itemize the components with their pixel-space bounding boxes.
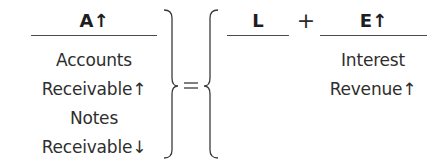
liabilities-rule — [227, 35, 289, 36]
equity-item-interest: Interest — [313, 46, 433, 75]
equity-items: Interest Revenue↑ — [313, 46, 433, 104]
equals-sign-icon — [184, 82, 198, 90]
opening-brace-icon — [200, 8, 220, 160]
assets-item-receivable-up: Receivable↑ — [20, 75, 168, 104]
equity-heading: E↑ — [320, 10, 427, 32]
assets-item-receivable-down: Receivable↓ — [20, 133, 168, 162]
liabilities-heading: L — [227, 10, 289, 32]
assets-items: Accounts Receivable↑ Notes Receivable↓ — [20, 46, 168, 162]
assets-item-notes: Notes — [20, 104, 168, 133]
plus-sign: + — [296, 10, 316, 32]
assets-heading: A↑ — [31, 10, 157, 32]
assets-item-accounts: Accounts — [20, 46, 168, 75]
equity-rule — [320, 35, 427, 36]
closing-brace-icon — [162, 8, 182, 160]
equity-item-revenue-up: Revenue↑ — [313, 75, 433, 104]
assets-rule — [31, 35, 157, 36]
